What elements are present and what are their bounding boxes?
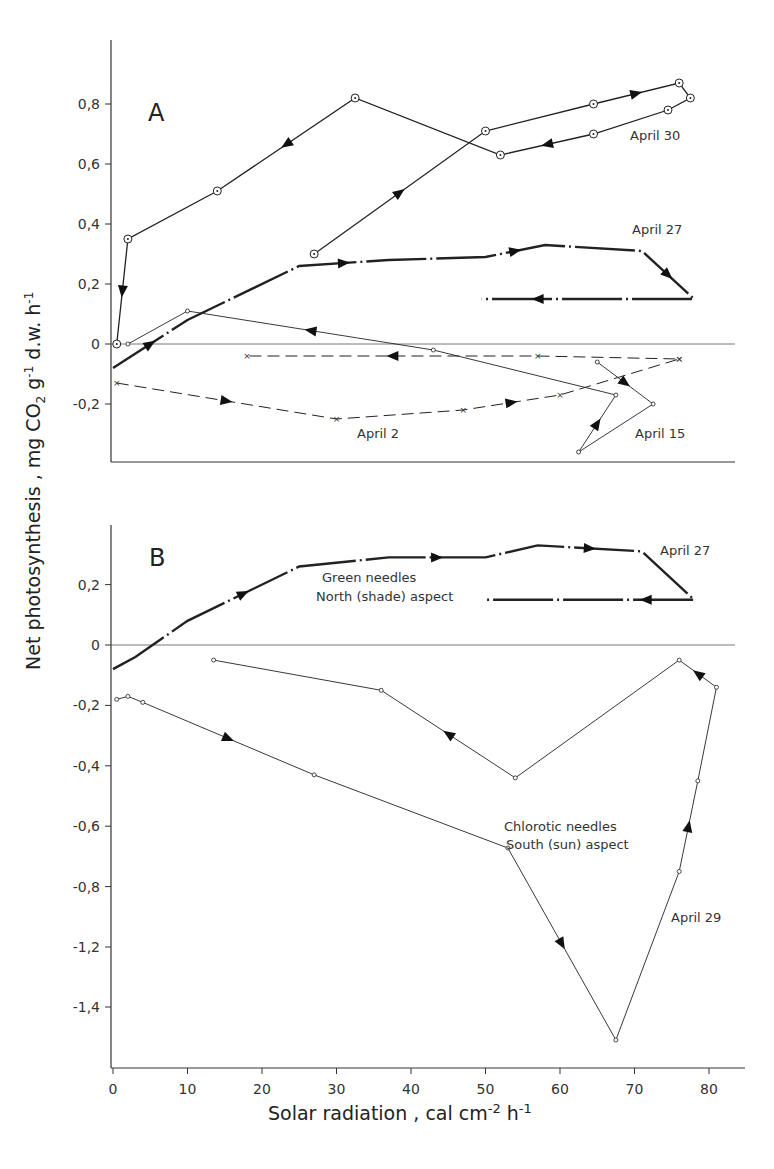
direction-arrow-icon <box>532 294 544 304</box>
svg-text:0: 0 <box>91 336 100 352</box>
label-south-aspect: South (sun) aspect <box>506 837 629 852</box>
svg-text:×: × <box>534 351 542 361</box>
svg-text:0,2: 0,2 <box>78 276 100 292</box>
direction-arrow-icon <box>505 397 518 409</box>
label-north-aspect: North (shade) aspect <box>316 589 453 604</box>
svg-text:0,2: 0,2 <box>78 577 100 593</box>
series-line <box>117 356 679 419</box>
x-axis-title: Solar radiation , cal cm-2 h-1 <box>268 1101 532 1124</box>
y-axis-title: Net photosynthesis , mg CO2 g-1 d.w. h-1 <box>22 292 48 670</box>
direction-arrow-icon <box>117 285 128 298</box>
label-april-2: April 2 <box>357 426 399 441</box>
svg-text:10: 10 <box>179 1081 197 1097</box>
svg-text:×: × <box>333 414 341 424</box>
axes: -0,200,20,40,60,8-1,4-1,2-0,8-0,6-0,4-0,… <box>73 40 745 1097</box>
panel-label-a: A <box>148 99 165 127</box>
svg-text:-1,2: -1,2 <box>73 939 100 955</box>
direction-arrow-icon <box>590 416 605 432</box>
label-april-27-a: April 27 <box>632 222 682 237</box>
direction-arrow-icon <box>304 325 317 337</box>
svg-text:-0,2: -0,2 <box>73 396 100 412</box>
svg-text:20: 20 <box>253 1081 271 1097</box>
direction-arrow-icon <box>221 732 236 746</box>
svg-text:-0,6: -0,6 <box>73 818 100 834</box>
direction-arrow-icon <box>629 87 643 100</box>
svg-text:×: × <box>243 351 251 361</box>
svg-text:0,4: 0,4 <box>78 216 100 232</box>
svg-text:×: × <box>459 405 467 415</box>
series-line <box>117 83 691 344</box>
direction-arrow-icon <box>617 375 633 390</box>
svg-text:80: 80 <box>700 1081 718 1097</box>
direction-arrow-icon <box>690 666 706 681</box>
direction-arrow-icon <box>338 258 351 269</box>
svg-text:-0,2: -0,2 <box>73 697 100 713</box>
label-april-15: April 15 <box>635 426 685 441</box>
direction-arrow-icon <box>278 137 294 152</box>
direction-arrow-icon <box>392 185 408 200</box>
label-april-30: April 30 <box>630 128 680 143</box>
direction-arrow-icon <box>236 587 251 601</box>
svg-text:0,8: 0,8 <box>78 96 100 112</box>
svg-text:30: 30 <box>328 1081 346 1097</box>
svg-text:×: × <box>113 378 121 388</box>
series-line <box>113 245 694 368</box>
panel-label-b: B <box>149 544 165 572</box>
direction-arrow-icon <box>220 395 233 407</box>
svg-text:-0,4: -0,4 <box>73 758 100 774</box>
label-april-29: April 29 <box>671 910 721 925</box>
label-green-needles: Green needles <box>322 570 417 585</box>
svg-text:0,6: 0,6 <box>78 156 100 172</box>
photosynthesis-chart: -0,200,20,40,60,8-1,4-1,2-0,8-0,6-0,4-0,… <box>0 0 774 1169</box>
svg-text:70: 70 <box>626 1081 644 1097</box>
svg-text:×: × <box>556 390 564 400</box>
direction-arrow-icon <box>431 552 443 562</box>
direction-arrow-icon <box>386 351 398 361</box>
label-chlorotic-needles: Chlorotic needles <box>504 819 617 834</box>
direction-arrow-icon <box>640 595 652 605</box>
svg-text:-1,4: -1,4 <box>73 999 100 1015</box>
direction-arrow-icon <box>555 936 570 951</box>
svg-text:×: × <box>675 354 683 364</box>
svg-text:0: 0 <box>109 1081 118 1097</box>
series-line <box>113 545 694 669</box>
svg-text:0: 0 <box>91 637 100 653</box>
svg-text:-0,8: -0,8 <box>73 879 100 895</box>
label-april-27-b: April 27 <box>660 543 710 558</box>
series-layer: ×××××××× <box>113 79 719 1042</box>
direction-arrow-icon <box>682 819 694 833</box>
direction-arrow-icon <box>540 138 554 150</box>
direction-arrow-icon <box>440 727 456 742</box>
direction-arrow-icon <box>584 543 597 554</box>
svg-text:50: 50 <box>477 1081 495 1097</box>
svg-text:60: 60 <box>551 1081 569 1097</box>
svg-text:40: 40 <box>402 1081 420 1097</box>
